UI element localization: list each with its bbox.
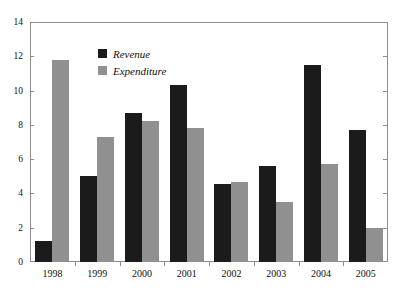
y-tick-mark [383, 193, 387, 194]
y-tick-label: 0 [18, 257, 23, 267]
y-tick-mark [30, 159, 34, 160]
x-tick-label: 2005 [356, 268, 376, 280]
y-tick-mark [30, 193, 34, 194]
y-tick-mark [30, 228, 34, 229]
y-tick-label: 10 [14, 86, 24, 96]
chart-legend: Revenue Expenditure [98, 46, 198, 80]
x-tick-label: 1998 [42, 268, 62, 280]
x-tick-mark [254, 262, 255, 266]
y-tick-mark [383, 159, 387, 160]
x-tick-label: 2004 [311, 268, 331, 280]
y-tick-mark [30, 91, 34, 92]
legend-label-expenditure: Expenditure [113, 65, 166, 77]
y-tick-mark [383, 228, 387, 229]
y-tick-label: 2 [18, 223, 23, 233]
bar-expenditure-2002 [231, 182, 248, 262]
x-tick-mark [209, 262, 210, 266]
x-tick-mark [164, 262, 165, 266]
y-tick-label: 14 [14, 17, 24, 27]
y-axis: 02468101214 [0, 0, 30, 291]
y-tick-label: 8 [18, 120, 23, 130]
x-tick-label: 2001 [177, 268, 197, 280]
bar-revenue-2000 [125, 113, 142, 262]
bar-expenditure-1998 [52, 60, 69, 262]
bar-revenue-2004 [304, 65, 321, 262]
y-tick-label: 12 [14, 51, 24, 61]
y-tick-mark [383, 125, 387, 126]
bar-expenditure-2001 [187, 128, 204, 262]
bar-chart: 02468101214 Revenue Expenditure 19981999… [0, 0, 402, 291]
y-tick-label: 6 [18, 154, 23, 164]
bar-revenue-1999 [80, 176, 97, 262]
y-tick-label: 4 [18, 188, 23, 198]
bar-expenditure-2004 [321, 164, 338, 262]
bar-expenditure-2000 [142, 121, 159, 262]
x-tick-mark [120, 262, 121, 266]
bar-revenue-2005 [349, 130, 366, 262]
bar-expenditure-1999 [97, 137, 114, 262]
x-tick-label: 2002 [221, 268, 241, 280]
bar-revenue-2001 [170, 85, 187, 262]
legend-item-revenue: Revenue [98, 46, 198, 61]
bar-revenue-1998 [35, 241, 52, 262]
x-tick-label: 2000 [132, 268, 152, 280]
legend-swatch-icon-expenditure [98, 66, 107, 75]
bar-expenditure-2003 [276, 202, 293, 262]
legend-swatch-icon-revenue [98, 49, 107, 58]
bar-revenue-2002 [214, 184, 231, 262]
y-tick-mark [30, 56, 34, 57]
y-tick-mark [383, 56, 387, 57]
x-tick-mark [343, 262, 344, 266]
legend-item-expenditure: Expenditure [98, 63, 198, 78]
x-tick-label: 2003 [266, 268, 286, 280]
bar-expenditure-2005 [366, 228, 383, 262]
legend-label-revenue: Revenue [113, 48, 150, 60]
bars-layer [30, 22, 388, 262]
y-tick-mark [30, 125, 34, 126]
x-tick-mark [299, 262, 300, 266]
x-tick-label: 1999 [87, 268, 107, 280]
y-tick-mark [383, 91, 387, 92]
x-tick-mark [75, 262, 76, 266]
bar-revenue-2003 [259, 166, 276, 262]
